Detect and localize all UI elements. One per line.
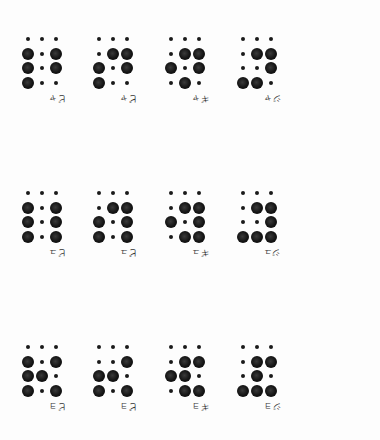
flat-dot xyxy=(26,191,30,195)
raised-dot xyxy=(165,216,177,228)
flat-dot xyxy=(241,37,245,41)
raised-dot xyxy=(121,216,133,228)
flat-dot xyxy=(183,66,187,70)
raised-dot xyxy=(93,370,105,382)
cell-label: ピョ xyxy=(119,402,137,413)
raised-dot xyxy=(251,231,263,243)
flat-dot xyxy=(54,37,58,41)
flat-dot xyxy=(197,345,201,349)
raised-dot xyxy=(165,370,177,382)
flat-dot xyxy=(111,66,115,70)
flat-dot xyxy=(169,37,173,41)
flat-dot xyxy=(255,220,259,224)
flat-dot xyxy=(40,191,44,195)
flat-dot xyxy=(40,220,44,224)
flat-dot xyxy=(241,345,245,349)
raised-dot xyxy=(179,370,191,382)
flat-dot xyxy=(97,345,101,349)
raised-dot xyxy=(265,385,277,397)
raised-dot xyxy=(36,370,48,382)
flat-dot xyxy=(40,37,44,41)
flat-dot xyxy=(169,52,173,56)
flat-dot xyxy=(54,81,58,85)
flat-dot xyxy=(255,66,259,70)
raised-dot xyxy=(22,385,34,397)
raised-dot xyxy=(50,385,62,397)
raised-dot xyxy=(50,216,62,228)
flat-dot xyxy=(40,389,44,393)
cell-label: ビャ xyxy=(48,94,66,105)
raised-dot xyxy=(22,77,34,89)
flat-dot xyxy=(269,191,273,195)
raised-dot xyxy=(251,77,263,89)
raised-dot xyxy=(237,385,249,397)
raised-dot xyxy=(50,48,62,60)
flat-dot xyxy=(40,52,44,56)
flat-dot xyxy=(183,37,187,41)
cell-label: ジャ xyxy=(263,94,281,105)
flat-dot xyxy=(125,191,129,195)
raised-dot xyxy=(107,370,119,382)
raised-dot xyxy=(107,48,119,60)
cell-label: ビュ xyxy=(48,248,66,259)
raised-dot xyxy=(179,385,191,397)
flat-dot xyxy=(40,66,44,70)
raised-dot xyxy=(93,231,105,243)
raised-dot xyxy=(22,48,34,60)
raised-dot xyxy=(193,216,205,228)
flat-dot xyxy=(111,360,115,364)
flat-dot xyxy=(255,37,259,41)
raised-dot xyxy=(193,48,205,60)
flat-dot xyxy=(269,37,273,41)
flat-dot xyxy=(169,360,173,364)
flat-dot xyxy=(111,235,115,239)
flat-dot xyxy=(241,374,245,378)
flat-dot xyxy=(169,235,173,239)
flat-dot xyxy=(40,81,44,85)
flat-dot xyxy=(111,389,115,393)
raised-dot xyxy=(121,356,133,368)
raised-dot xyxy=(193,231,205,243)
flat-dot xyxy=(111,220,115,224)
flat-dot xyxy=(241,66,245,70)
raised-dot xyxy=(251,370,263,382)
raised-dot xyxy=(179,48,191,60)
flat-dot xyxy=(40,345,44,349)
flat-dot xyxy=(54,374,58,378)
flat-dot xyxy=(255,191,259,195)
flat-dot xyxy=(97,37,101,41)
raised-dot xyxy=(93,385,105,397)
raised-dot xyxy=(265,62,277,74)
flat-dot xyxy=(269,374,273,378)
raised-dot xyxy=(265,48,277,60)
raised-dot xyxy=(22,356,34,368)
raised-dot xyxy=(121,385,133,397)
raised-dot xyxy=(193,202,205,214)
raised-dot xyxy=(251,356,263,368)
flat-dot xyxy=(125,37,129,41)
raised-dot xyxy=(193,356,205,368)
flat-dot xyxy=(241,206,245,210)
raised-dot xyxy=(93,62,105,74)
flat-dot xyxy=(125,374,129,378)
flat-dot xyxy=(111,37,115,41)
flat-dot xyxy=(97,191,101,195)
flat-dot xyxy=(97,360,101,364)
raised-dot xyxy=(179,356,191,368)
raised-dot xyxy=(22,216,34,228)
flat-dot xyxy=(269,345,273,349)
raised-dot xyxy=(121,62,133,74)
raised-dot xyxy=(265,231,277,243)
flat-dot xyxy=(169,389,173,393)
flat-dot xyxy=(169,81,173,85)
flat-dot xyxy=(255,345,259,349)
flat-dot xyxy=(40,235,44,239)
flat-dot xyxy=(169,191,173,195)
flat-dot xyxy=(197,37,201,41)
flat-dot xyxy=(111,81,115,85)
flat-dot xyxy=(125,345,129,349)
raised-dot xyxy=(107,202,119,214)
cell-label: ギュ xyxy=(191,248,209,259)
flat-dot xyxy=(169,206,173,210)
raised-dot xyxy=(251,202,263,214)
